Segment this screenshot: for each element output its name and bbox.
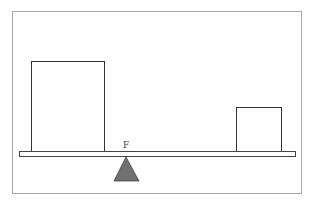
fulcrum-triangle-icon — [0, 0, 315, 204]
